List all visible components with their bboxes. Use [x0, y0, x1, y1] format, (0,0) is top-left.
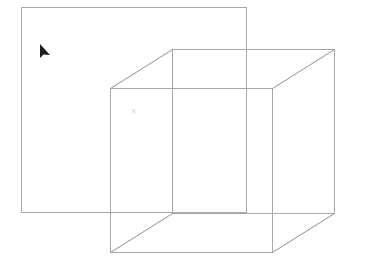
drawing-canvas[interactable]: × [0, 0, 366, 268]
cross-marker-icon: × [130, 106, 138, 116]
